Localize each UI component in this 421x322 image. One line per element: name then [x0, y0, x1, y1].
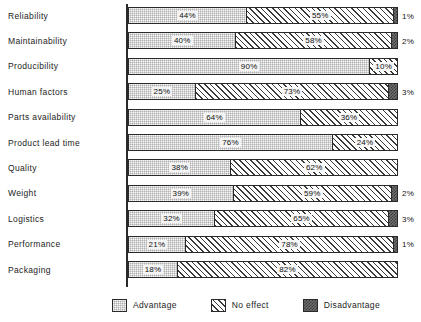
segment-value-label: 90% — [239, 62, 260, 71]
stacked-bar: 21%78%1% — [128, 236, 398, 253]
chart-row: Producibility90%10% — [0, 58, 421, 75]
bar-segment-advantage: 90% — [129, 59, 369, 74]
bar-segment-disadvantage: 2% — [391, 186, 397, 201]
category-label: Human factors — [8, 87, 68, 97]
bar-segment-no-effect: 59% — [233, 186, 391, 201]
outside-value-label: 3% — [402, 87, 414, 96]
legend-item-advantage: Advantage — [112, 299, 177, 312]
bar-segment-advantage: 18% — [129, 262, 177, 277]
category-label: Performance — [8, 239, 61, 249]
bar-segment-no-effect: 78% — [185, 237, 393, 252]
stacked-bar-chart: Reliability44%55%1%1%Maintainability40%5… — [0, 0, 421, 322]
segment-value-label: 21% — [147, 240, 168, 249]
segment-value-label: 38% — [169, 163, 190, 172]
category-label: Maintainability — [8, 36, 67, 46]
stacked-bar: 44%55%1% — [128, 7, 398, 24]
bar-segment-disadvantage: 2% — [391, 33, 397, 48]
segment-value-label: 18% — [143, 265, 164, 274]
legend-label-no-effect: No effect — [232, 300, 269, 310]
bar-segment-no-effect: 62% — [230, 160, 397, 175]
segment-value-label: 62% — [304, 163, 325, 172]
segment-value-label: 32% — [161, 214, 182, 223]
chart-row: Quality38%62% — [0, 159, 421, 176]
category-label: Weight — [8, 188, 36, 198]
outside-value-label: 1% — [402, 240, 414, 249]
chart-row: Reliability44%55%1%1% — [0, 7, 421, 24]
category-label: Product lead time — [8, 138, 80, 148]
bar-segment-disadvantage: 1% — [393, 8, 397, 23]
stacked-bar: 64%36% — [128, 109, 398, 126]
chart-row: Packaging18%82% — [0, 261, 421, 278]
bar-segment-disadvantage: 3% — [388, 211, 397, 226]
stacked-bar: 25%73%3% — [128, 83, 398, 100]
stacked-bar: 38%62% — [128, 159, 398, 176]
bar-segment-advantage: 40% — [129, 33, 235, 48]
bar-segment-advantage: 25% — [129, 84, 195, 99]
bar-segment-no-effect: 73% — [195, 84, 388, 99]
bar-segment-no-effect: 58% — [235, 33, 390, 48]
chart-row: Performance21%78%1%1% — [0, 236, 421, 253]
stacked-bar: 39%59%2% — [128, 185, 398, 202]
bar-segment-advantage: 38% — [129, 160, 230, 175]
chart-row: Maintainability40%58%2%2% — [0, 32, 421, 49]
legend-item-disadvantage: Disadvantage — [303, 299, 380, 312]
outside-value-label: 3% — [402, 214, 414, 223]
chart-legend: Advantage No effect Disadvantage — [112, 296, 412, 314]
outside-value-label: 2% — [402, 189, 414, 198]
legend-swatch-disadvantage — [303, 299, 318, 312]
legend-label-disadvantage: Disadvantage — [324, 300, 380, 310]
bar-segment-no-effect: 10% — [369, 59, 397, 74]
legend-swatch-no-effect — [211, 299, 226, 312]
segment-value-label: 73% — [282, 87, 303, 96]
bar-segment-no-effect: 82% — [177, 262, 397, 277]
legend-swatch-advantage — [112, 299, 127, 312]
bar-segment-advantage: 21% — [129, 237, 185, 252]
segment-value-label: 58% — [303, 36, 324, 45]
bar-segment-advantage: 32% — [129, 211, 214, 226]
chart-row: Product lead time76%24% — [0, 134, 421, 151]
legend-item-no-effect: No effect — [211, 299, 269, 312]
bar-segment-no-effect: 36% — [300, 110, 397, 125]
category-label: Logistics — [8, 214, 44, 224]
category-label: Reliability — [8, 11, 48, 21]
stacked-bar: 32%65%3% — [128, 210, 398, 227]
segment-value-label: 39% — [171, 189, 192, 198]
segment-value-label: 82% — [277, 265, 298, 274]
stacked-bar: 18%82% — [128, 261, 398, 278]
segment-value-label: 59% — [302, 189, 323, 198]
stacked-bar: 40%58%2% — [128, 32, 398, 49]
outside-value-label: 2% — [402, 36, 414, 45]
outside-value-label: 1% — [402, 11, 414, 20]
bar-segment-disadvantage: 3% — [388, 84, 397, 99]
bar-segment-no-effect: 55% — [246, 8, 393, 23]
stacked-bar: 90%10% — [128, 58, 398, 75]
chart-row: Weight39%59%2%2% — [0, 185, 421, 202]
bar-segment-advantage: 64% — [129, 110, 300, 125]
category-label: Quality — [8, 163, 37, 173]
bar-segment-advantage: 76% — [129, 135, 332, 150]
segment-value-label: 76% — [220, 138, 241, 147]
segment-value-label: 44% — [177, 11, 198, 20]
category-label: Parts availability — [8, 112, 76, 122]
legend-label-advantage: Advantage — [133, 300, 177, 310]
category-label: Producibility — [8, 61, 58, 71]
segment-value-label: 25% — [152, 87, 173, 96]
bar-segment-no-effect: 24% — [332, 135, 397, 150]
segment-value-label: 24% — [355, 138, 376, 147]
bar-segment-disadvantage: 1% — [393, 237, 397, 252]
chart-row: Parts availability64%36% — [0, 109, 421, 126]
category-label: Packaging — [8, 265, 51, 275]
bar-segment-advantage: 39% — [129, 186, 233, 201]
bar-segment-advantage: 44% — [129, 8, 246, 23]
segment-value-label: 55% — [310, 11, 331, 20]
segment-value-label: 78% — [279, 240, 300, 249]
segment-value-label: 40% — [172, 36, 193, 45]
chart-row: Logistics32%65%3%3% — [0, 210, 421, 227]
bar-segment-no-effect: 65% — [214, 211, 388, 226]
chart-row: Human factors25%73%3%3% — [0, 83, 421, 100]
segment-value-label: 64% — [204, 113, 225, 122]
segment-value-label: 65% — [291, 214, 312, 223]
segment-value-label: 10% — [373, 62, 394, 71]
segment-value-label: 36% — [339, 113, 360, 122]
stacked-bar: 76%24% — [128, 134, 398, 151]
